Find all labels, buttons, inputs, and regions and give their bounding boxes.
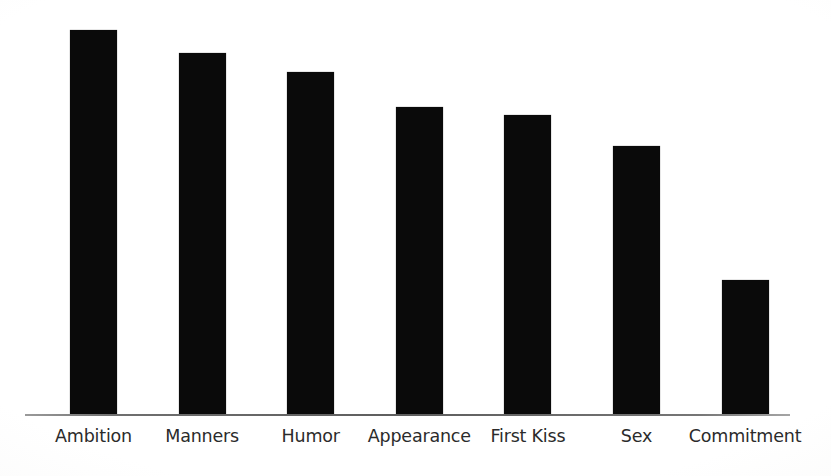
bar-first-kiss — [504, 115, 551, 415]
x-axis-tick-labels: Ambition Manners Humor Appearance First … — [0, 424, 831, 460]
tick-label-commitment: Commitment — [655, 424, 831, 448]
bar-manners — [179, 53, 226, 415]
bar-appearance — [396, 107, 443, 415]
bar-commitment — [722, 280, 769, 415]
bar-sex — [613, 146, 660, 416]
bar-chart-figure: Ambition Manners Humor Appearance First … — [0, 0, 831, 476]
x-axis-line — [25, 414, 790, 416]
bar-ambition — [70, 30, 117, 415]
bar-humor — [287, 72, 334, 415]
plot-area — [0, 0, 831, 415]
